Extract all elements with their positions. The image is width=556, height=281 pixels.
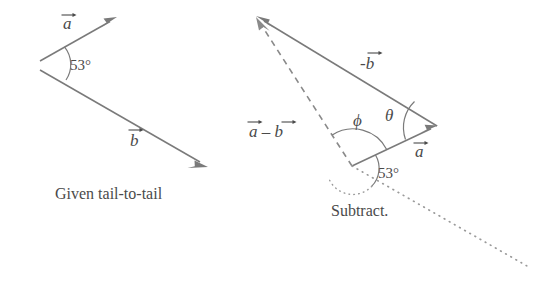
right-label-a: a xyxy=(414,141,429,161)
right-panel-caption: Subtract. xyxy=(331,202,388,219)
left-panel-caption: Given tail-to-tail xyxy=(55,185,163,202)
left-angle-label: 53° xyxy=(70,57,91,73)
right-angle53-label: 53° xyxy=(378,165,399,181)
left-vector-b-shaft xyxy=(40,70,200,162)
right-theta-label: θ xyxy=(385,106,393,125)
right-panel-group: -b a a – b ϕ θ 53° xyxy=(248,16,528,266)
right-phi-label: ϕ xyxy=(353,111,362,130)
left-label-a-overbar-arrowhead xyxy=(73,13,77,17)
right-label-a-minus-b-text: a – b xyxy=(249,122,283,141)
right-label-minus-b-text: -b xyxy=(360,54,374,73)
right-label-minus-b: -b xyxy=(360,51,383,73)
right-label-a-text: a xyxy=(415,142,424,161)
left-vector-a-shaft xyxy=(40,22,110,62)
right-phi-arc xyxy=(332,129,387,150)
vector-diagram-canvas: 53° a b Given tail-to-tail xyxy=(0,0,556,281)
right-angle53-arc-dotted xyxy=(329,178,372,194)
right-label-a-overbar-arrowhead xyxy=(425,141,429,145)
right-label-a-minus-b: a – b xyxy=(248,120,297,141)
right-label-a-minus-b-overbar-b-arrowhead xyxy=(293,120,297,124)
right-vector-minus-b-shaft xyxy=(264,21,437,126)
left-vector-b-arrowhead xyxy=(188,161,208,169)
left-vector-a xyxy=(40,17,117,61)
left-vector-b xyxy=(40,70,208,168)
right-vector-a-minus-b xyxy=(256,17,352,166)
left-label-a-text: a xyxy=(63,14,72,33)
right-vector-a-arrowhead xyxy=(420,125,438,133)
left-label-b: b xyxy=(129,128,144,150)
left-panel-group: 53° a b Given tail-to-tail xyxy=(40,13,208,202)
right-label-minus-b-overbar-arrowhead xyxy=(379,51,383,55)
right-vector-minus-b xyxy=(256,16,437,126)
vector-diagram-figure: 53° a b Given tail-to-tail xyxy=(0,0,556,281)
left-label-b-text: b xyxy=(130,131,139,150)
left-label-a: a xyxy=(62,13,77,33)
